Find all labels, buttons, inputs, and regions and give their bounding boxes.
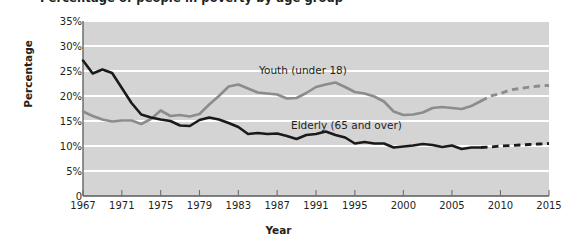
x-tick-label: 2010: [476, 200, 524, 211]
x-tick-label: 2015: [525, 200, 566, 211]
x-tick-label: 2005: [428, 200, 476, 211]
x-axis-title: Year: [0, 224, 557, 236]
x-tick-label: 2000: [379, 200, 427, 211]
plot-background: [83, 21, 549, 196]
series-label-elderly: Elderly (65 and over): [291, 119, 402, 131]
x-tick-label: 1995: [331, 200, 379, 211]
series-label-youth: Youth (under 18): [259, 64, 347, 76]
